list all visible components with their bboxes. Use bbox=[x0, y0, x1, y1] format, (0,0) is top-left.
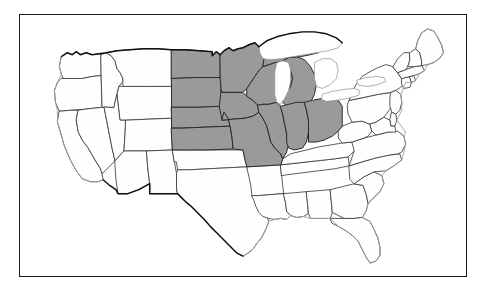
state-washington[interactable] bbox=[59, 52, 101, 79]
state-ohio[interactable] bbox=[305, 97, 343, 142]
western-states-group bbox=[54, 49, 177, 194]
us-map-svg[interactable] bbox=[20, 15, 466, 276]
state-colorado[interactable] bbox=[124, 118, 173, 151]
state-kansas[interactable] bbox=[172, 126, 234, 150]
state-oklahoma[interactable] bbox=[173, 150, 247, 170]
state-arkansas[interactable] bbox=[247, 165, 284, 196]
state-new-jersey[interactable] bbox=[390, 90, 402, 114]
state-georgia[interactable] bbox=[330, 184, 368, 219]
lake-superior bbox=[259, 32, 342, 60]
state-oregon[interactable] bbox=[54, 76, 102, 112]
map-figure bbox=[0, 0, 481, 292]
map-frame bbox=[19, 14, 467, 277]
lake-huron bbox=[314, 59, 338, 89]
state-alabama[interactable] bbox=[307, 190, 333, 219]
state-wyoming[interactable] bbox=[117, 86, 172, 120]
state-south-dakota[interactable] bbox=[172, 78, 223, 108]
state-florida[interactable] bbox=[330, 217, 380, 263]
state-new-mexico[interactable] bbox=[147, 150, 178, 194]
southeastern-states-group bbox=[330, 121, 405, 263]
